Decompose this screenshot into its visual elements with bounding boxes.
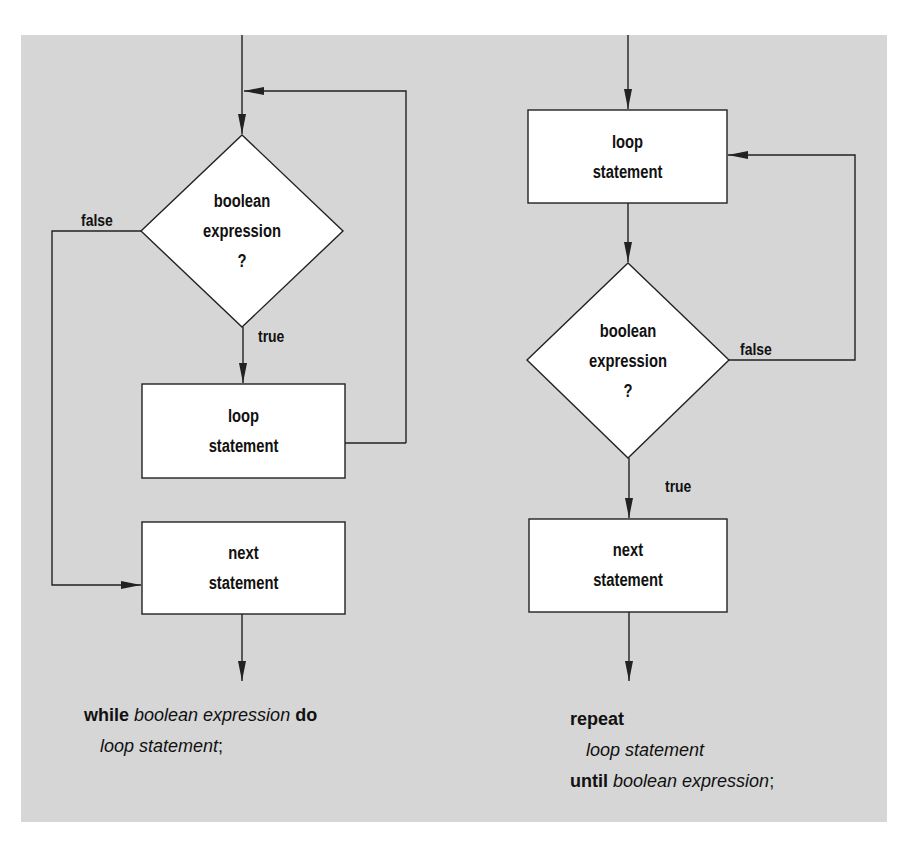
code-condition: boolean expression [134,705,290,725]
decision-line-3: ? [160,246,324,276]
loop-box-line-2: statement [546,157,709,187]
next-box-line-2: statement [160,568,326,598]
false-loop-back-arrow-icon [728,155,855,360]
code-condition: boolean expression [613,771,769,791]
loop-box-line-1: loop [546,127,709,157]
code-body: loop statement [100,736,218,756]
keyword-repeat: repeat [570,704,774,735]
decision-line-2: expression [160,216,324,246]
code-line-2: loop statement; [84,731,317,762]
code-semicolon: ; [769,771,774,791]
decision-line-2: expression [546,346,710,376]
while-decision-text: boolean expression ? [142,186,342,276]
code-line-1: while boolean expression do [84,700,317,731]
while-false-label: false [81,212,113,229]
keyword-until: until [570,771,608,791]
keyword-while: while [84,705,129,725]
code-body: loop statement [570,735,774,766]
next-box-line-2: statement [547,565,709,595]
false-arrow-icon [52,231,141,585]
while-true-label: true [258,328,284,345]
repeat-loop-box-text: loop statement [528,127,727,187]
code-semicolon: ; [218,736,223,756]
code-line-3: until boolean expression; [570,766,774,797]
decision-line-1: boolean [160,186,324,216]
next-box-line-1: next [160,538,326,568]
decision-line-3: ? [546,376,710,406]
while-loop-box-text: loop statement [142,401,345,461]
loop-box-line-2: statement [160,431,326,461]
repeat-decision-text: boolean expression ? [528,316,728,406]
loop-box-line-1: loop [160,401,326,431]
repeat-code-snippet: repeat loop statement until boolean expr… [570,704,774,797]
repeat-next-box-text: next statement [529,535,727,595]
repeat-true-label: true [665,478,691,495]
decision-line-1: boolean [546,316,710,346]
keyword-do: do [295,705,317,725]
repeat-false-label: false [740,341,772,358]
while-code-snippet: while boolean expression do loop stateme… [84,700,317,762]
next-box-line-1: next [547,535,709,565]
while-next-box-text: next statement [142,538,345,598]
